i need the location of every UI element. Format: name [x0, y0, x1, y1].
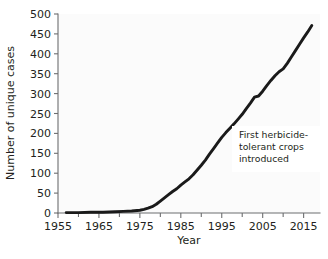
plot-area-background [58, 14, 320, 213]
annotation-line-3: introduced [239, 153, 289, 164]
y-tick-label-50: 50 [37, 187, 51, 200]
y-tick-label-0: 0 [44, 207, 51, 220]
y-tick-label-300: 300 [30, 88, 51, 101]
annotation-line-2: tolerant crops [239, 141, 304, 152]
x-tick-label-1965: 1965 [85, 220, 113, 233]
x-tick-label-1975: 1975 [126, 220, 154, 233]
y-tick-label-450: 450 [30, 28, 51, 41]
chart-figure: 050100150200250300350400450500 195519651… [0, 0, 328, 259]
x-axis-tick-labels: 1955196519751985199520052015 [44, 220, 318, 233]
y-tick-label-350: 350 [30, 68, 51, 81]
x-tick-label-2015: 2015 [290, 220, 318, 233]
x-axis-title: Year [176, 234, 201, 247]
y-tick-label-400: 400 [30, 48, 51, 61]
line-chart: 050100150200250300350400450500 195519651… [0, 0, 328, 259]
x-tick-label-1955: 1955 [44, 220, 72, 233]
y-tick-label-200: 200 [30, 127, 51, 140]
y-tick-label-150: 150 [30, 147, 51, 160]
annotation-callout: First herbicide- tolerant crops introduc… [232, 126, 320, 172]
x-tick-label-2005: 2005 [249, 220, 277, 233]
x-tick-label-1995: 1995 [208, 220, 236, 233]
y-tick-label-100: 100 [30, 167, 51, 180]
y-tick-label-250: 250 [30, 108, 51, 121]
y-tick-label-500: 500 [30, 8, 51, 21]
annotation-line-1: First herbicide- [239, 129, 308, 140]
y-axis-title: Number of unique cases [4, 46, 17, 180]
x-tick-label-1985: 1985 [167, 220, 195, 233]
